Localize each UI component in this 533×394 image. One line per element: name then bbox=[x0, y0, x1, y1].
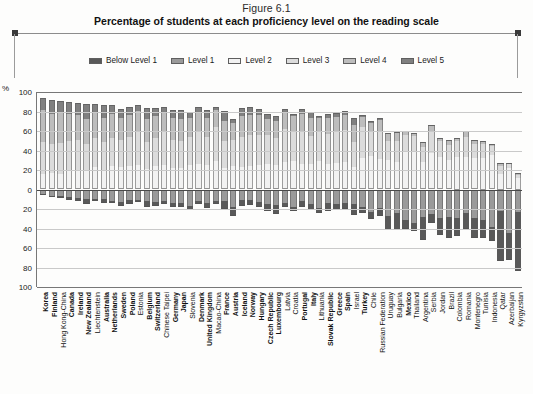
bar-segment bbox=[101, 118, 107, 142]
x-label-column: Italy bbox=[305, 292, 314, 392]
bar-stack-above-baseline bbox=[247, 107, 253, 190]
bar-stack-above-baseline bbox=[195, 107, 201, 189]
bar-segment bbox=[239, 190, 245, 200]
bar-segment bbox=[411, 223, 417, 231]
y-axis-tick-label: 80 bbox=[23, 107, 32, 116]
bar-stack-above-baseline bbox=[152, 108, 158, 189]
bar-stack-below-baseline bbox=[49, 190, 55, 198]
legend-item-label: Below Level 1 bbox=[106, 56, 157, 65]
bar-segment bbox=[273, 165, 279, 190]
bar-stack-above-baseline bbox=[316, 116, 322, 190]
bar-segment bbox=[195, 164, 201, 189]
x-label-column: Australia bbox=[98, 292, 107, 392]
bar-stack-below-baseline bbox=[221, 190, 227, 209]
bar-stack-below-baseline bbox=[187, 190, 193, 211]
bar-segment bbox=[152, 190, 158, 202]
bar-segment bbox=[463, 137, 469, 157]
bar-segment bbox=[170, 190, 176, 204]
bar-stack-below-baseline bbox=[497, 190, 503, 261]
bar-segment bbox=[221, 111, 227, 120]
bar-segment bbox=[342, 130, 348, 162]
legend-item-label: Level 5 bbox=[418, 56, 444, 65]
bar-segment bbox=[118, 140, 124, 167]
bar-segment bbox=[66, 170, 72, 190]
bar-segment bbox=[394, 162, 400, 190]
bar-segment bbox=[204, 203, 210, 208]
bar-segment bbox=[308, 164, 314, 189]
bar-segment bbox=[170, 203, 176, 207]
bar-segment bbox=[454, 141, 460, 156]
bar-segment bbox=[342, 190, 348, 204]
bar-segment bbox=[83, 171, 89, 190]
bar-segment bbox=[290, 131, 296, 162]
bar-segment bbox=[239, 116, 245, 137]
legend-item: Level 1 bbox=[171, 56, 214, 65]
bar-segment bbox=[428, 190, 434, 214]
bar-segment bbox=[170, 168, 176, 190]
bar-segment bbox=[299, 164, 305, 190]
bar-stack-above-baseline bbox=[506, 163, 512, 190]
x-label-column: Macao-China bbox=[211, 292, 220, 392]
bar-stack-above-baseline bbox=[446, 140, 452, 189]
bar-segment bbox=[213, 127, 219, 161]
bar-stack-above-baseline bbox=[394, 132, 400, 189]
chart-legend: Below Level 1Level 1Level 2Level 3Level … bbox=[0, 56, 533, 65]
bar-segment bbox=[273, 190, 279, 206]
bar-segment bbox=[135, 165, 141, 190]
bar-segment bbox=[446, 160, 452, 190]
bar-segment bbox=[359, 190, 365, 208]
bar-segment bbox=[101, 170, 107, 190]
x-label-column: Jordan bbox=[435, 292, 444, 392]
bar-stack-below-baseline bbox=[135, 190, 141, 203]
bar-segment bbox=[135, 132, 141, 164]
x-label-column: Israel bbox=[349, 292, 358, 392]
bar-segment bbox=[49, 173, 55, 189]
bar-segment bbox=[377, 159, 383, 190]
x-label-column: Montenegro bbox=[469, 292, 478, 392]
plot-canvas bbox=[36, 92, 521, 287]
bar-segment bbox=[247, 190, 253, 201]
bar-segment bbox=[394, 133, 400, 140]
bar-segment bbox=[506, 190, 512, 234]
bar-stack-above-baseline bbox=[497, 163, 503, 189]
bar-segment bbox=[480, 158, 486, 190]
bar-stack-above-baseline bbox=[161, 107, 167, 190]
bar-segment bbox=[368, 212, 374, 219]
x-label-column: Greece bbox=[331, 292, 340, 392]
bar-segment bbox=[264, 119, 270, 136]
bar-segment bbox=[118, 202, 124, 207]
bar-segment bbox=[83, 144, 89, 170]
bar-segment bbox=[463, 213, 469, 229]
bar-segment bbox=[402, 220, 408, 228]
bar-segment bbox=[161, 201, 167, 204]
bar-segment bbox=[454, 218, 460, 235]
bar-stack-below-baseline bbox=[506, 190, 512, 261]
legend-item-label: Level 1 bbox=[188, 56, 214, 65]
legend-item: Level 4 bbox=[343, 56, 386, 65]
bar-segment bbox=[351, 190, 357, 204]
bar-stack-below-baseline bbox=[273, 190, 279, 215]
bar-stack-below-baseline bbox=[342, 190, 348, 209]
x-label-column: Austria bbox=[228, 292, 237, 392]
bar-stack-above-baseline bbox=[402, 131, 408, 189]
bar-segment bbox=[308, 118, 314, 136]
bar-segment bbox=[126, 190, 132, 201]
bar-stack-above-baseline bbox=[83, 104, 89, 190]
bar-stack-below-baseline bbox=[195, 190, 201, 205]
bar-segment bbox=[351, 125, 357, 142]
legend-item: Level 2 bbox=[228, 56, 271, 65]
bar-segment bbox=[489, 155, 495, 189]
bar-stack-below-baseline bbox=[152, 190, 158, 206]
bar-segment bbox=[170, 140, 176, 168]
bar-segment bbox=[282, 162, 288, 190]
bar-segment bbox=[325, 134, 331, 164]
bar-segment bbox=[299, 114, 305, 132]
legend-item-label: Level 2 bbox=[245, 56, 271, 65]
bar-segment bbox=[75, 115, 81, 140]
bar-segment bbox=[126, 200, 132, 204]
bar-segment bbox=[463, 157, 469, 190]
bar-segment bbox=[75, 198, 81, 201]
bar-stack-below-baseline bbox=[489, 190, 495, 242]
bar-segment bbox=[144, 190, 150, 202]
x-label-column: Netherlands bbox=[107, 292, 116, 392]
